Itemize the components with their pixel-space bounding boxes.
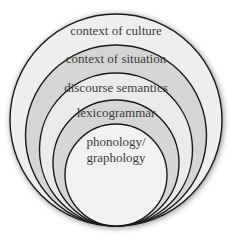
label-lexicogrammar: lexicogrammar — [0, 105, 232, 120]
label-phonology: phonology/ — [0, 134, 232, 149]
label-graphology: graphology — [0, 150, 232, 165]
label-context-of-culture: context of culture — [0, 23, 232, 38]
label-discourse-semantics: discourse semantics — [0, 80, 232, 95]
label-context-of-situation: context of situation — [0, 51, 232, 66]
